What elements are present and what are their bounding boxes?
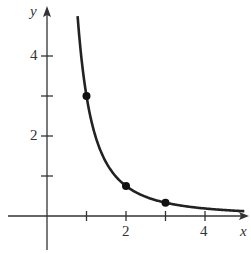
data-point [83, 92, 91, 100]
y-axis-label: y [30, 4, 37, 19]
axes [8, 6, 249, 250]
curve [78, 16, 245, 211]
x-tick-label-2: 2 [122, 224, 130, 239]
y-tick-label-2: 2 [30, 128, 38, 143]
function-plot [0, 0, 251, 254]
data-point [122, 182, 130, 190]
x-axis-label: x [240, 224, 247, 239]
data-point [162, 199, 170, 207]
y-tick-label-4: 4 [30, 48, 38, 63]
x-tick-label-4: 4 [200, 224, 208, 239]
marked-points [83, 92, 170, 207]
